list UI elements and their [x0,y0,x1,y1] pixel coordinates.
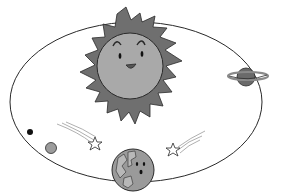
saturn [228,68,268,86]
earth [112,149,154,191]
earth-eye-right [143,162,145,166]
star-icon [166,143,180,156]
tiny-planet [27,129,33,135]
solar-system-illustration [0,0,281,195]
star-icon [88,137,102,150]
small-planet [46,143,57,154]
shooting-star-right [166,131,205,156]
shooting-star-left [57,122,102,150]
earth-eye-left [136,162,138,166]
sun-eye-left [119,53,122,59]
sun-eye-right [141,51,144,57]
earth-mouth [140,170,143,174]
saturn-body [237,68,255,86]
